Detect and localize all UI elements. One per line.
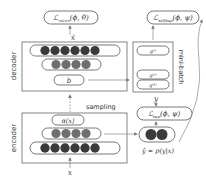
minibatch-item-2-label: g⁽ʲ⁾ bbox=[150, 72, 158, 79]
input-label: x bbox=[68, 169, 72, 177]
minibatch-label: mini-batch bbox=[177, 50, 185, 85]
prediction-label: ŷ ≈ p(y|x) bbox=[141, 147, 174, 155]
alpha-label: α(x) bbox=[61, 117, 75, 125]
architecture-diagram: decoder b x̂ ℒrecon(ϕ, θ) sampling encod… bbox=[0, 0, 206, 185]
decoder-label: decoder bbox=[10, 52, 18, 81]
target-label: y bbox=[153, 95, 159, 103]
minibatch-item-3-label: g⁽ᵏ⁾ bbox=[149, 82, 157, 89]
reconstruction-label: x̂ bbox=[71, 34, 75, 42]
bottleneck-label: b bbox=[67, 77, 72, 85]
minibatch-item-1-label: g⁽ⁱ⁾ bbox=[150, 48, 157, 55]
encoder-label: encoder bbox=[10, 124, 18, 153]
sup-loss-text: ℒsup(ϕ, ψ) bbox=[148, 110, 181, 119]
sampling-label: sampling bbox=[86, 103, 116, 111]
